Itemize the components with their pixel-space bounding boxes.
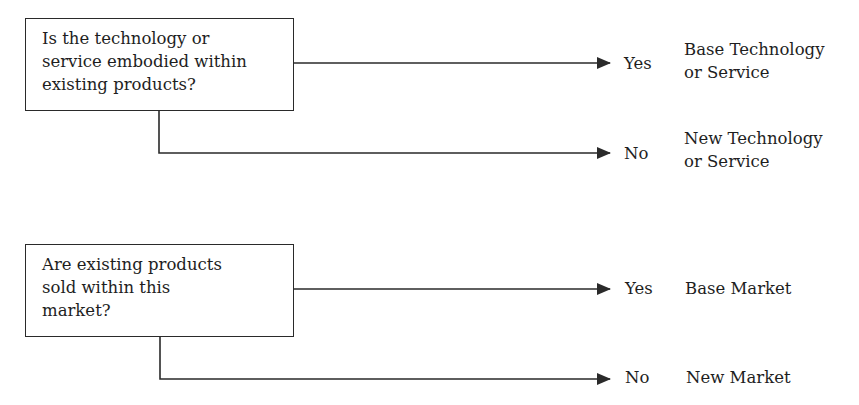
answer-yes-label: Yes [624, 52, 652, 75]
answer-yes-label: Yes [625, 277, 653, 300]
question-box-technology: Is the technology or service embodied wi… [25, 18, 294, 111]
result-new-market: New Market [686, 366, 791, 389]
result-new-technology: New Technology or Service [684, 127, 823, 173]
question-line: existing products? [42, 73, 293, 96]
question-line: market? [42, 299, 293, 322]
result-line: Base Technology [684, 38, 824, 61]
q1-no-arrow [159, 110, 610, 153]
result-line: New Technology [684, 127, 823, 150]
result-base-market: Base Market [685, 277, 791, 300]
result-line: or Service [684, 150, 823, 173]
answer-no-label: No [624, 142, 648, 165]
result-line: New Market [686, 366, 791, 389]
result-line: or Service [684, 61, 824, 84]
question-line: Are existing products [42, 253, 293, 276]
q2-no-arrow [160, 336, 610, 379]
answer-no-label: No [625, 366, 649, 389]
question-line: service embodied within [42, 50, 293, 73]
question-line: Is the technology or [42, 27, 293, 50]
question-line: sold within this [42, 276, 293, 299]
question-box-market: Are existing products sold within this m… [25, 244, 294, 337]
result-base-technology: Base Technology or Service [684, 38, 824, 84]
result-line: Base Market [685, 277, 791, 300]
